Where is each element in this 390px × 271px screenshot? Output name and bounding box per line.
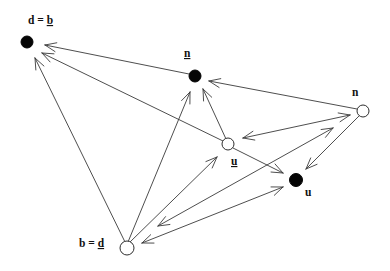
node-label-u-open: u: [231, 155, 238, 167]
edge-line: [243, 115, 350, 138]
edge-line: [128, 92, 190, 242]
arrowhead-icon: [182, 92, 190, 101]
label-part: n: [184, 47, 191, 59]
filled-node-u-filled: [290, 174, 303, 187]
edge-n-open-to-n-filled: [209, 79, 357, 109]
arrowhead-icon: [203, 89, 204, 101]
labels-layer: d = bnnuub = d: [28, 14, 359, 249]
node-label-d-b: d = b: [28, 14, 53, 26]
edge-n-filled-to-d-b: [45, 43, 189, 74]
label-part: u: [231, 155, 238, 167]
label-part: u: [305, 186, 312, 198]
edge-line: [209, 81, 357, 109]
arrowhead-icon: [203, 89, 212, 97]
label-part: d: [98, 237, 105, 249]
edge-b-d-to-d-b: [35, 58, 125, 242]
diagram-canvas: d = bnnuub = d: [0, 0, 390, 271]
arrowhead-icon: [209, 79, 221, 81]
arrowhead-icon: [338, 113, 350, 115]
edge-b-d-to-n-filled: [128, 92, 190, 242]
edge-u-open-to-n-filled: [203, 89, 226, 139]
directed-graph: d = bnnuub = d: [0, 0, 390, 271]
arrowhead-icon: [45, 43, 57, 45]
arrowhead-icon: [325, 128, 333, 137]
arrowhead-icon: [42, 53, 50, 62]
arrowhead-icon: [275, 164, 283, 173]
node-label-u-filled: u: [305, 186, 312, 198]
arrowhead-icon: [35, 58, 44, 66]
edge-line: [35, 58, 125, 242]
label-part: b =: [79, 237, 98, 249]
node-label-b-d: b = d: [79, 237, 105, 249]
edge-line: [203, 89, 226, 139]
arrowhead-icon: [243, 138, 255, 140]
filled-node-d-b: [21, 36, 33, 48]
edge-b-d-to-n-open: [158, 128, 333, 226]
label-part: d =: [28, 14, 47, 26]
open-node-n-open: [357, 105, 369, 117]
label-part: n: [352, 86, 359, 98]
node-label-n-filled: n: [184, 47, 191, 59]
filled-node-n-filled: [189, 70, 201, 82]
open-node-u-open: [222, 138, 234, 150]
edge-line: [158, 128, 333, 226]
label-part: b: [47, 14, 53, 26]
node-label-n-open: n: [352, 86, 359, 98]
open-node-b-d: [120, 241, 134, 255]
edge-line: [45, 45, 189, 74]
arrowhead-icon: [158, 217, 166, 226]
edge-u-open-to-n-open: [243, 113, 350, 140]
